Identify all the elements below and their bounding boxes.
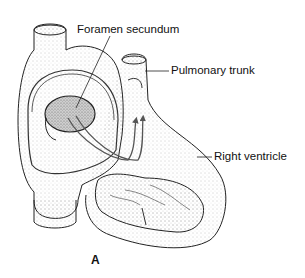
panel-letter: A — [91, 253, 100, 267]
label-right-ventricle: Right ventricle — [214, 151, 287, 163]
label-pulmonary-trunk: Pulmonary trunk — [171, 65, 255, 77]
heart-diagram — [0, 0, 305, 278]
label-foramen-secundum: Foramen secundum — [77, 24, 179, 36]
inferior-vena-cava — [34, 200, 76, 228]
